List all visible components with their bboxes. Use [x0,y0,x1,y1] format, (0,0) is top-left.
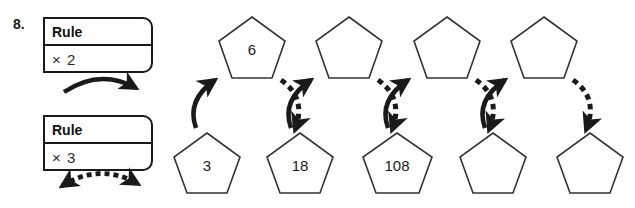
diagram-svg [0,0,635,208]
pentagon-top-2 [414,17,480,78]
pentagon-bottom-3 [460,133,526,193]
pentagon-bottom-0 [174,133,240,193]
worksheet-problem-canvas: 8. Rule × 2 Rule × 3 [0,0,635,208]
pentagon-top-1 [316,17,382,78]
solid-arrow-b0-to-t0 [193,80,215,128]
dashed-curved-double-arrow-legend [62,173,138,186]
dashed-arrow-t3-to-b4 [573,80,590,130]
solid-curved-arrow-legend [64,79,136,92]
pentagon-top-3 [511,17,577,78]
pentagon-bottom-2 [363,133,432,193]
pentagon-top-0 [219,17,285,78]
pentagon-bottom-1 [267,133,333,193]
pentagon-bottom-4 [557,133,623,193]
